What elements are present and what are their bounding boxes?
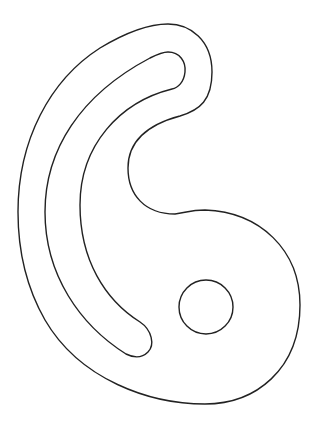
stencil-figure xyxy=(0,0,318,424)
circular-hole xyxy=(179,280,233,334)
outer-outline xyxy=(18,24,300,404)
curved-slot xyxy=(45,52,185,357)
